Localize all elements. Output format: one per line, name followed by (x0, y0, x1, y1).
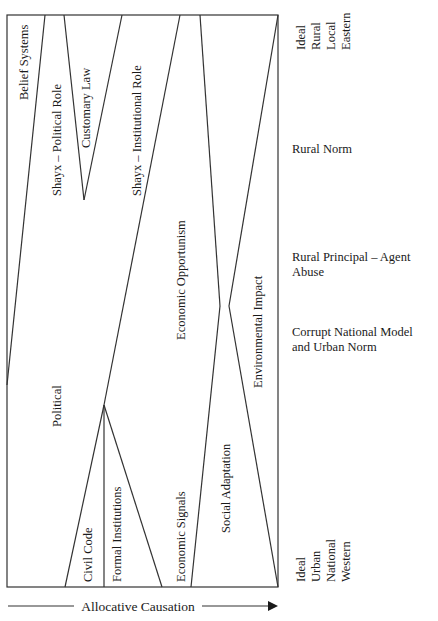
top-pole-rural: Rural (309, 13, 324, 50)
level-corrupt-national: Corrupt National Model and Urban Norm (292, 325, 413, 355)
bottom-pole-western: Western (339, 539, 354, 582)
label-social-adaptation: Social Adaptation (219, 443, 233, 533)
level-rural-principal-agent: Rural Principal – Agent Abuse (292, 250, 410, 280)
top-pole-local: Local (324, 13, 339, 50)
axis-arrowhead-icon (268, 601, 278, 611)
label-economic-opportunism: Economic Opportunism (174, 220, 188, 340)
economic-opportunism-right-upper (200, 15, 220, 306)
label-civil-code: Civil Code (81, 527, 95, 582)
environmental-impact-left-upper (229, 15, 278, 306)
label-environmental-impact: Environmental Impact (251, 275, 265, 388)
label-economic-signals: Economic Signals (174, 491, 188, 582)
label-belief-systems: Belief Systems (17, 25, 31, 100)
bottom-pole-urban: Urban (309, 539, 324, 582)
label-shayx-institutional-role: Shayx – Institutional Role (130, 65, 144, 196)
bottom-pole-labels: Ideal Urban National Western (294, 539, 354, 582)
level-line: Abuse (292, 265, 410, 280)
level-line: Corrupt National Model (292, 325, 413, 340)
level-line: Rural Norm (292, 142, 352, 157)
top-pole-labels: Ideal Rural Local Eastern (294, 13, 354, 50)
bottom-pole-ideal: Ideal (294, 539, 309, 582)
level-rural-norm: Rural Norm (292, 142, 352, 157)
bottom-pole-national: National (324, 539, 339, 582)
level-line: and Urban Norm (292, 340, 413, 355)
top-pole-eastern: Eastern (339, 13, 354, 50)
label-customary-law: Customary Law (79, 68, 93, 148)
axis-label: Allocative Causation (81, 599, 195, 614)
diagram-canvas: Belief Systems Shayx – Political Role Cu… (0, 0, 438, 621)
top-pole-ideal: Ideal (294, 13, 309, 50)
label-formal-institutions: Formal Institutions (110, 486, 124, 582)
social-adaptation-left-boundary (191, 306, 220, 587)
label-shayx-political-role: Shayx – Political Role (50, 83, 64, 196)
level-line: Rural Principal – Agent (292, 250, 410, 265)
label-political: Political (50, 385, 64, 427)
